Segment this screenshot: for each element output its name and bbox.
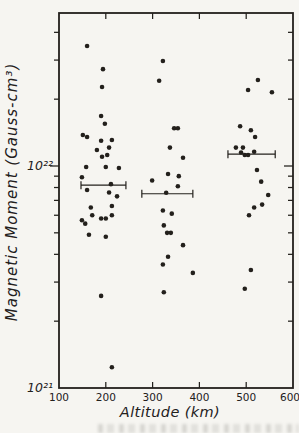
data-point (103, 121, 108, 126)
data-point (101, 67, 106, 72)
data-point (246, 153, 251, 158)
data-point (166, 172, 171, 177)
data-point (166, 254, 171, 259)
data-point (253, 135, 258, 140)
data-point (177, 174, 182, 179)
data-point (191, 271, 196, 276)
y-tick-label: 10²² (27, 158, 53, 173)
data-point (255, 168, 260, 173)
x-tick-label: 100 (49, 391, 69, 403)
data-point (169, 211, 174, 216)
data-point (247, 213, 252, 218)
y-axis-title: Magnetic Moment (Gauss-cm³) (3, 63, 21, 322)
data-point (100, 85, 105, 90)
data-point (161, 208, 166, 213)
data-point (85, 135, 90, 140)
data-point (85, 44, 90, 49)
plot-frame (59, 13, 293, 388)
data-point (90, 213, 95, 218)
data-point (238, 124, 243, 129)
data-point (181, 155, 186, 160)
data-point (260, 202, 265, 207)
data-point (234, 145, 239, 150)
data-point (256, 78, 261, 83)
data-point (176, 184, 181, 189)
plot-generated-layer: 10²¹10²²100200300400500600 (27, 13, 299, 403)
data-point (107, 190, 112, 195)
data-point (117, 166, 122, 171)
data-point (110, 365, 115, 370)
data-point (157, 78, 162, 83)
data-point (266, 193, 271, 198)
data-point (176, 126, 181, 131)
data-point (95, 148, 100, 153)
data-point (80, 175, 85, 180)
data-point (115, 194, 120, 199)
data-point (99, 114, 104, 119)
error-bar-mean-dot (109, 182, 114, 187)
data-point (110, 138, 115, 143)
data-point (161, 262, 166, 267)
data-point (249, 128, 254, 133)
data-point (89, 205, 94, 210)
x-tick-label: 600 (280, 391, 299, 403)
data-point (246, 88, 251, 93)
data-point (99, 138, 104, 143)
data-point (239, 150, 244, 155)
cropped-caption-fragment (98, 424, 299, 433)
data-point (259, 179, 264, 184)
data-point (81, 133, 86, 138)
data-point (162, 223, 167, 228)
data-point (169, 231, 174, 236)
data-point (99, 294, 104, 299)
x-tick-label: 300 (143, 391, 163, 403)
data-point (107, 145, 112, 150)
data-point (80, 218, 85, 223)
data-point (161, 59, 166, 64)
data-point (85, 188, 90, 193)
figure-page: 10²¹10²²100200300400500600 Altitude (km)… (0, 0, 299, 433)
data-point (110, 213, 115, 218)
data-point (84, 165, 89, 170)
data-point (241, 145, 246, 150)
data-point (252, 149, 257, 154)
data-point (104, 165, 109, 170)
data-point (150, 178, 155, 183)
x-axis-title: Altitude (km) (119, 404, 220, 420)
data-point (181, 243, 186, 248)
data-point (162, 290, 167, 295)
data-point (99, 216, 104, 221)
x-tick-label: 400 (189, 391, 209, 403)
data-point (242, 286, 247, 291)
data-point (168, 145, 173, 150)
error-bar-mean-dot (164, 190, 169, 195)
data-point (100, 155, 105, 160)
data-point (104, 234, 109, 239)
data-point (270, 90, 275, 95)
data-point (249, 268, 254, 273)
scatter-plot: 10²¹10²²100200300400500600 Altitude (km)… (0, 0, 299, 433)
x-tick-label: 500 (236, 391, 256, 403)
x-tick-label: 200 (96, 391, 116, 403)
data-point (83, 221, 88, 226)
data-point (110, 204, 115, 209)
data-point (104, 216, 109, 221)
data-point (87, 232, 92, 237)
data-point (252, 205, 257, 210)
data-point (105, 153, 110, 158)
